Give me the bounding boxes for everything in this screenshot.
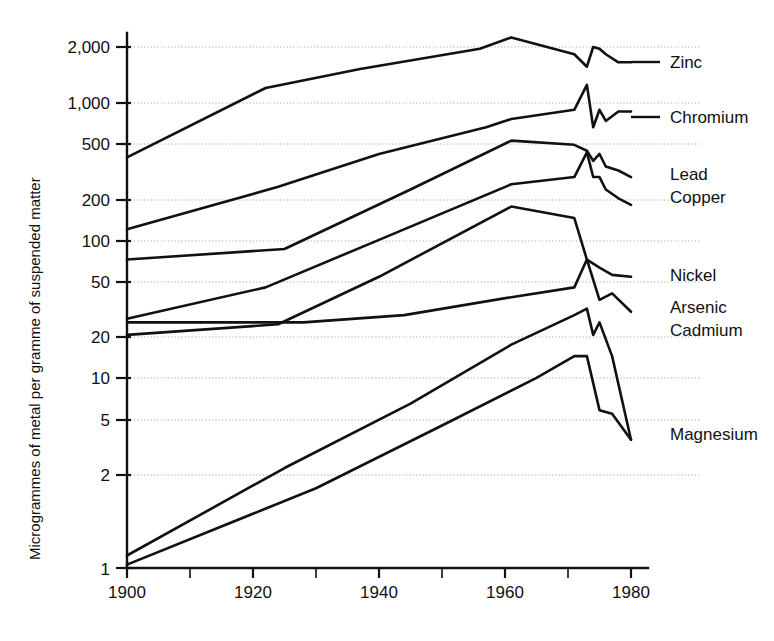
x-tick-label-1940: 1940 (360, 583, 398, 602)
series-label-nickel: Nickel (670, 266, 716, 285)
metal-concentration-line-chart: Microgrammes of metal per gramme of susp… (0, 0, 774, 641)
chart-figure: Microgrammes of metal per gramme of susp… (0, 0, 774, 641)
series-line-nickel (127, 207, 631, 335)
x-axis-tick-labels: 1900 1920 1940 1960 1980 (108, 583, 650, 602)
x-tick-label-1900: 1900 (108, 583, 146, 602)
y-tick-label-10: 10 (91, 369, 110, 388)
gridlines (127, 47, 700, 475)
series-label-magnesium: Magnesium (670, 425, 758, 444)
series-line-arsenic (127, 260, 631, 323)
y-tick-label-20: 20 (91, 328, 110, 347)
y-tick-label-1000: 1,000 (67, 94, 110, 113)
series-label-zinc: Zinc (670, 53, 703, 72)
series-line-chromium (127, 85, 631, 229)
y-tick-label-100: 100 (82, 232, 110, 251)
series-label-arsenic: Arsenic (670, 298, 727, 317)
label-leader-lines (631, 62, 660, 117)
data-series-group (127, 37, 631, 564)
x-axis-ticks (127, 561, 631, 578)
series-line-zinc (127, 37, 631, 157)
series-label-cadmium: Cadmium (670, 321, 743, 340)
y-axis-tick-labels: 2,000 1,000 500 200 100 50 20 10 5 2 1 (67, 38, 110, 579)
y-axis-title: Microgrammes of metal per gramme of susp… (26, 177, 43, 560)
x-tick-label-1920: 1920 (234, 583, 272, 602)
y-tick-label-2: 2 (101, 466, 110, 485)
series-label-lead: Lead (670, 165, 708, 184)
y-tick-label-50: 50 (91, 273, 110, 292)
series-label-chromium: Chromium (670, 108, 748, 127)
x-tick-label-1960: 1960 (486, 583, 524, 602)
series-label-copper: Copper (670, 188, 726, 207)
y-tick-label-200: 200 (82, 191, 110, 210)
series-labels: Zinc Chromium Lead Copper Nickel Arsenic… (670, 53, 758, 444)
series-line-magnesium (127, 356, 631, 565)
x-tick-label-1980: 1980 (612, 583, 650, 602)
y-tick-label-1: 1 (101, 560, 110, 579)
y-tick-label-2000: 2,000 (67, 38, 110, 57)
y-axis-ticks (116, 47, 131, 568)
y-tick-label-500: 500 (82, 135, 110, 154)
y-tick-label-5: 5 (101, 411, 110, 430)
series-line-cadmium (127, 309, 631, 556)
series-line-copper (127, 152, 631, 318)
